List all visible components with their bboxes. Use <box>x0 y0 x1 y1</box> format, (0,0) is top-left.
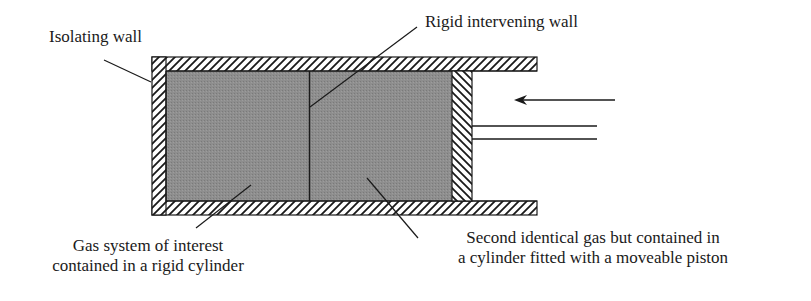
label-gas-system-line2: contained in a rigid cylinder <box>28 256 268 276</box>
leader-isolating-wall <box>104 60 151 82</box>
label-rigid-intervening-wall: Rigid intervening wall <box>425 12 578 32</box>
bottom-wall <box>152 201 537 215</box>
gas-system-of-interest <box>166 71 309 201</box>
top-wall <box>152 57 537 71</box>
label-second-gas-line2: a cylinder fitted with a moveable piston <box>428 248 758 268</box>
arrow-left-icon <box>514 95 615 105</box>
label-gas-system-line1: Gas system of interest <box>28 236 268 256</box>
label-gas-system: Gas system of interest contained in a ri… <box>28 236 268 276</box>
label-second-gas: Second identical gas but contained in a … <box>428 228 758 268</box>
label-isolating-wall: Isolating wall <box>49 27 142 47</box>
isolating-wall <box>152 57 166 215</box>
moveable-piston <box>452 71 472 201</box>
label-second-gas-line1: Second identical gas but contained in <box>428 228 758 248</box>
